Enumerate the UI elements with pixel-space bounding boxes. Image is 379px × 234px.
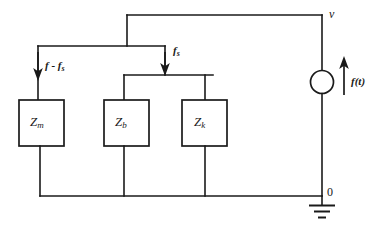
- node-label-zero: 0: [327, 186, 333, 198]
- circuit-diagram: Zm Zb Zk f - fs fs v 0 f(t): [0, 0, 379, 234]
- impedance-label-zm: Zm: [30, 115, 44, 130]
- impedance-label-zb: Zb: [115, 115, 127, 130]
- force-source-symbol: [311, 71, 334, 94]
- flow-label-fs: fs: [173, 45, 180, 58]
- impedance-label-zk: Zk: [194, 115, 205, 130]
- flow-label-f-minus-fs: f - fs: [45, 60, 65, 73]
- circuit-schematic-canvas: [0, 0, 379, 234]
- node-label-v: v: [329, 8, 334, 20]
- source-label-ft: f(t): [351, 76, 365, 87]
